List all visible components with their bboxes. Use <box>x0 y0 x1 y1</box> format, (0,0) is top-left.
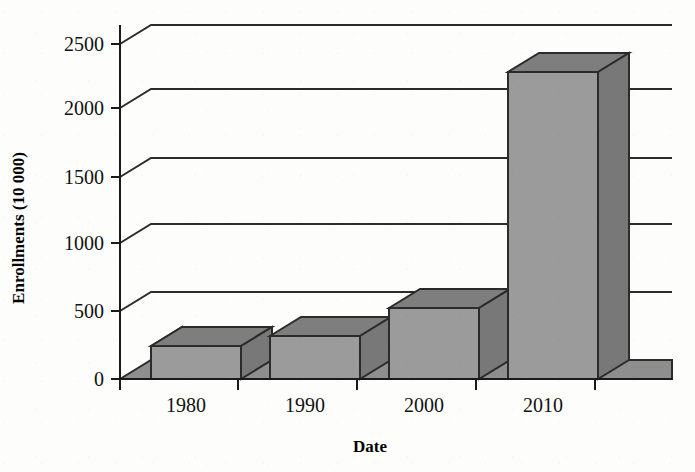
bar-2010[interactable] <box>508 53 629 379</box>
y-tick-label-2000: 2000 <box>64 97 104 119</box>
bar-1980[interactable] <box>151 327 272 379</box>
x-tick-label-2010: 2010 <box>523 394 563 416</box>
bar-2010-front <box>508 72 598 379</box>
y-tick-label-2500: 2500 <box>64 33 104 55</box>
y-tick-label-0: 0 <box>94 368 104 390</box>
y-axis-title: Enrollments (10 000) <box>9 152 28 304</box>
bar-2000-front <box>389 308 479 379</box>
x-tick-label-1980: 1980 <box>166 394 206 416</box>
x-tick-label-1990: 1990 <box>285 394 325 416</box>
bar-2000[interactable] <box>389 289 510 379</box>
y-tick-label-1000: 1000 <box>64 232 104 254</box>
y-tick-label-500: 500 <box>74 300 104 322</box>
x-tick-label-2000: 2000 <box>404 394 444 416</box>
bar-chart: 2500 2000 1500 1000 500 0 1980 1990 2000… <box>0 0 695 472</box>
bar-2010-rside <box>598 53 629 379</box>
x-axis-title: Date <box>353 437 387 456</box>
bar-1990[interactable] <box>270 317 391 379</box>
bar-1990-front <box>270 336 360 379</box>
bar-1980-front <box>151 346 241 379</box>
y-tick-label-1500: 1500 <box>64 166 104 188</box>
chart-canvas: 2500 2000 1500 1000 500 0 1980 1990 2000… <box>0 0 695 472</box>
